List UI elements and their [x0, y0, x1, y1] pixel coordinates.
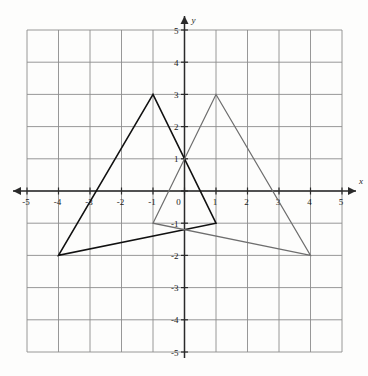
x-axis-tick-label: -5 [22, 197, 30, 207]
y-axis-tick-label: 5 [174, 26, 179, 36]
y-axis-tick-label: -3 [171, 283, 179, 293]
x-axis-tick-label: -4 [54, 197, 62, 207]
x-axis-tick-label: -2 [117, 197, 125, 207]
coordinate-plane-svg: -5-4-3-2-112345-5-4-3-2-1123450 xy [0, 0, 368, 376]
x-axis-arrow-left [13, 187, 21, 195]
origin-label: 0 [176, 197, 181, 207]
y-axis-tick-label: 4 [174, 58, 179, 68]
x-axis-tick-label: 4 [307, 197, 312, 207]
x-axis-arrow-right [348, 187, 356, 195]
axis-lines [13, 16, 356, 358]
y-axis-tick-label: -2 [171, 251, 179, 261]
x-axis-tick-label: 5 [339, 197, 344, 207]
x-axis-name-label: x [358, 176, 363, 186]
x-axis-tick-label: 1 [213, 197, 218, 207]
y-axis-tick-label: 2 [174, 122, 179, 132]
y-axis-name-label: y [191, 15, 196, 25]
x-axis-tick-label: -1 [148, 197, 156, 207]
y-axis-arrow-top [181, 16, 189, 24]
y-axis-tick-label: 1 [174, 154, 179, 164]
y-axis-tick-label: 3 [174, 90, 179, 100]
x-axis-tick-label: 2 [244, 197, 249, 207]
y-axis-tick-label: -4 [171, 315, 179, 325]
y-axis-tick-label: -5 [171, 348, 179, 358]
coordinate-graph-figure: -5-4-3-2-112345-5-4-3-2-1123450 xy [0, 0, 368, 376]
